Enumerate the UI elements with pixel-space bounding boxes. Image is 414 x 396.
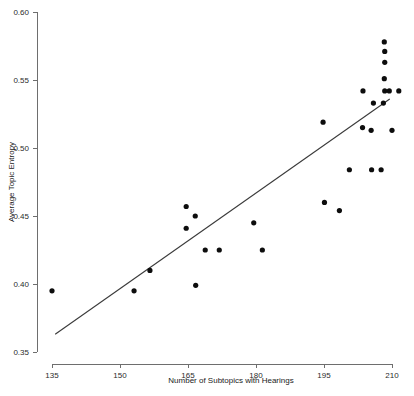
x-tick-label: 135 bbox=[45, 371, 59, 380]
data-point bbox=[184, 204, 189, 209]
data-point bbox=[322, 200, 327, 205]
data-point bbox=[371, 101, 376, 106]
y-axis-title: Average Topic Entropy bbox=[7, 142, 16, 222]
y-axis: 0.350.400.450.500.550.60 bbox=[13, 8, 37, 357]
data-point bbox=[184, 226, 189, 231]
data-point bbox=[369, 128, 374, 133]
data-point bbox=[49, 288, 54, 293]
regression-trend-line bbox=[55, 99, 390, 334]
y-axis-ticks: 0.350.400.450.500.550.60 bbox=[13, 8, 37, 357]
data-point bbox=[379, 167, 384, 172]
data-point bbox=[382, 49, 387, 54]
y-tick-label: 0.40 bbox=[13, 280, 29, 289]
plot-canvas: 0.350.400.450.500.550.60 135150165180195… bbox=[0, 0, 414, 396]
data-point bbox=[389, 128, 394, 133]
x-axis-title: Number of Subtopics with Hearings bbox=[168, 376, 293, 385]
scatter-plot-figure: 0.350.400.450.500.550.60 135150165180195… bbox=[0, 0, 414, 396]
data-point bbox=[260, 247, 265, 252]
x-tick-label: 150 bbox=[113, 371, 127, 380]
data-point bbox=[203, 247, 208, 252]
data-point bbox=[360, 125, 365, 130]
data-point bbox=[347, 167, 352, 172]
data-point bbox=[147, 268, 152, 273]
data-point bbox=[396, 88, 401, 93]
data-point bbox=[369, 167, 374, 172]
data-point bbox=[193, 283, 198, 288]
data-point bbox=[337, 208, 342, 213]
x-tick-label: 195 bbox=[317, 371, 331, 380]
trend-line-group bbox=[55, 99, 390, 334]
data-point bbox=[381, 101, 386, 106]
data-point bbox=[382, 39, 387, 44]
data-point bbox=[382, 76, 387, 81]
data-point bbox=[382, 88, 387, 93]
x-tick-label: 210 bbox=[385, 371, 399, 380]
data-point bbox=[193, 213, 198, 218]
data-point bbox=[131, 288, 136, 293]
data-point bbox=[217, 247, 222, 252]
y-tick-label: 0.35 bbox=[13, 348, 29, 357]
data-point bbox=[360, 88, 365, 93]
y-tick-label: 0.55 bbox=[13, 76, 29, 85]
y-tick-label: 0.60 bbox=[13, 8, 29, 17]
data-points-group bbox=[49, 39, 401, 293]
data-point bbox=[251, 220, 256, 225]
data-point bbox=[382, 60, 387, 65]
data-point bbox=[387, 88, 392, 93]
data-point bbox=[320, 120, 325, 125]
